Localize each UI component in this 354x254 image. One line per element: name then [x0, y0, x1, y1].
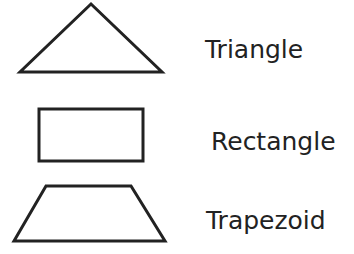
rectangle-label: Rectangle [211, 129, 336, 154]
trapezoid-shape [14, 186, 165, 241]
triangle-shape [20, 4, 162, 72]
rectangle-shape [39, 109, 143, 161]
trapezoid-label: Trapezoid [206, 208, 326, 233]
triangle-label: Triangle [205, 37, 303, 62]
